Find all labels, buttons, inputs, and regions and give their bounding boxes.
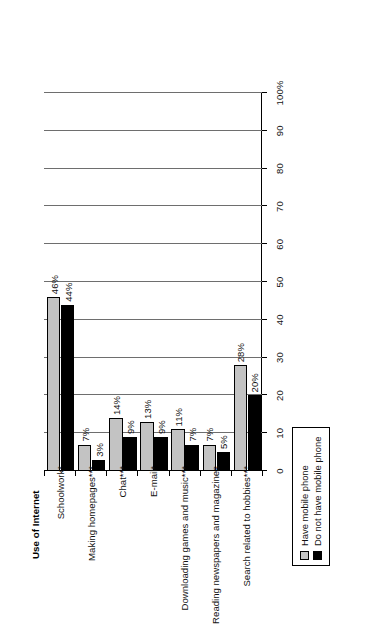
category-band: 7%5% [200, 93, 231, 471]
value-axis-tick [262, 205, 267, 206]
value-axis-tick-label: 80 [274, 163, 285, 174]
bar-value-label: 7% [187, 428, 198, 442]
category-axis-label: Downloading games and music*** [179, 466, 190, 611]
category-axis-label: Chat*** [116, 466, 127, 497]
bar-value-label: 7% [79, 428, 90, 442]
category-axis-label: E-mail* [148, 466, 159, 497]
value-axis-tick [262, 394, 267, 395]
value-axis-tick-label: 0 [274, 468, 285, 473]
value-axis-tick [262, 243, 267, 244]
category-axis-label: Search related to hobbies*** [241, 466, 252, 587]
category-axis-tick [231, 471, 232, 476]
value-axis-tick-label: 90 [274, 125, 285, 136]
category-band: 7%3% [75, 93, 106, 471]
category-axis-tick [75, 471, 76, 476]
value-axis-tick [262, 357, 267, 358]
bar-0 [47, 297, 61, 471]
bar-value-label: 5% [218, 435, 229, 449]
bar-0 [234, 365, 248, 471]
category-band: 28%20% [231, 93, 262, 471]
value-axis-tick [262, 319, 267, 320]
bar-value-label: 9% [155, 420, 166, 434]
category-band: 11%7% [169, 93, 200, 471]
value-axis-tick-label: 50 [274, 277, 285, 288]
value-axis-tick-label: 10 [274, 428, 285, 439]
category-axis-tick [169, 471, 170, 476]
bar-value-label: 14% [110, 396, 121, 415]
chart-title: Use of Internet [30, 490, 41, 559]
bar-1 [61, 305, 75, 471]
value-axis-tick [262, 281, 267, 282]
value-axis-tick [262, 92, 267, 93]
legend-item-label: Do not have mobile phone [312, 437, 323, 546]
value-axis-tick-label: 100% [274, 80, 285, 105]
value-axis-tick [262, 432, 267, 433]
value-axis-tick-label: 30 [274, 352, 285, 363]
bar-1 [248, 395, 262, 471]
category-axis-tick [262, 471, 263, 476]
category-axis-label: Schoolwork* [54, 466, 65, 519]
legend-swatch-icon [313, 551, 322, 560]
bar-value-label: 28% [235, 343, 246, 362]
category-band: 13%9% [137, 93, 168, 471]
category-axis-tick [106, 471, 107, 476]
category-axis-label: Reading newspapers and magazines [210, 466, 221, 624]
value-axis-tick-label: 20 [274, 390, 285, 401]
bar-value-label: 20% [249, 373, 260, 392]
value-axis-tick-label: 40 [274, 314, 285, 325]
category-band: 14%9% [106, 93, 137, 471]
category-axis-label: Making homepages*** [85, 466, 96, 561]
plot-area: 0102030405060708090100%46%44%7%3%14%9%13… [44, 93, 262, 471]
legend-item-label: Have mobile phone [299, 465, 310, 546]
bar-0 [109, 418, 123, 471]
bar-value-label: 7% [204, 428, 215, 442]
value-axis-tick-label: 60 [274, 239, 285, 250]
value-axis-tick-label: 70 [274, 201, 285, 212]
value-axis-tick [262, 130, 267, 131]
category-band: 46%44% [44, 93, 75, 471]
legend-swatch-icon [300, 551, 309, 560]
bar-value-label: 3% [93, 443, 104, 457]
category-axis-tick [137, 471, 138, 476]
value-axis-tick [262, 168, 267, 169]
bar-value-label: 11% [173, 408, 184, 426]
legend-item-have-mobile-phone: Have mobile phone [299, 434, 310, 560]
category-axis-tick [200, 471, 201, 476]
bar-value-label: 44% [62, 283, 73, 302]
bar-value-label: 13% [141, 400, 152, 419]
category-axis-tick [44, 471, 45, 476]
chart-legend: Have mobile phone Do not have mobile pho… [292, 427, 330, 566]
legend-item-do-not-have-mobile-phone: Do not have mobile phone [312, 434, 323, 560]
bar-0 [140, 422, 154, 471]
bar-value-label: 46% [48, 275, 59, 294]
bar-value-label: 9% [124, 420, 135, 434]
